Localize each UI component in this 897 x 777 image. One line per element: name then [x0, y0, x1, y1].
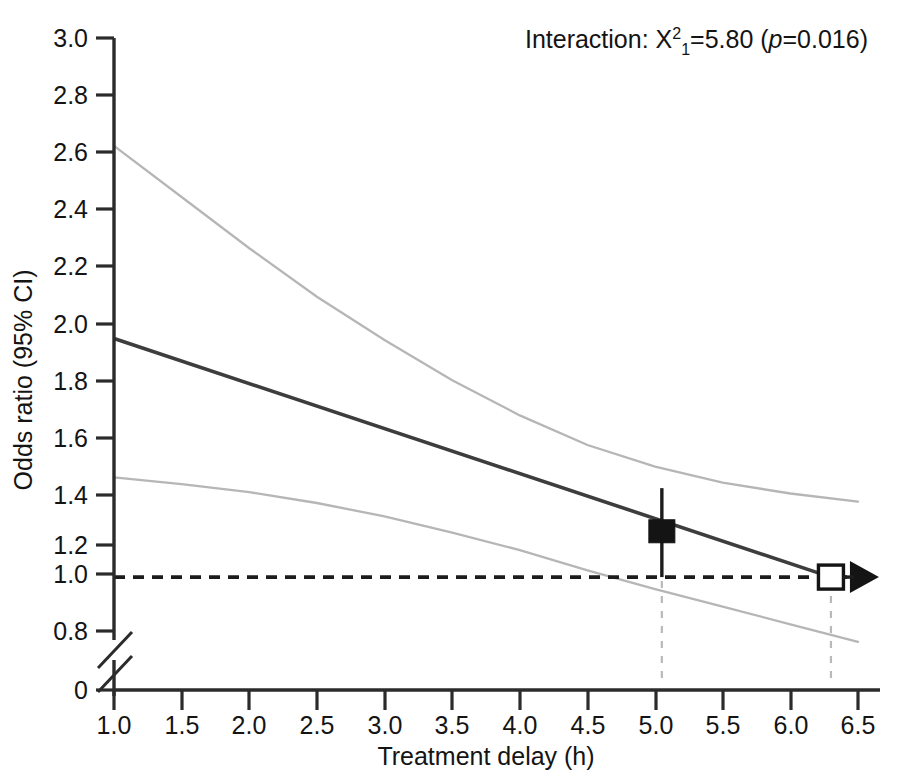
x-tick-label-2-0: 2.0: [232, 711, 267, 739]
interaction-statistic-annotation: Interaction: X21=5.80 (p=0.016): [525, 25, 868, 58]
x-tick-label-6-5: 6.5: [841, 711, 876, 739]
annot-prefix: Interaction: X: [525, 25, 673, 53]
lower-ci-polyline: [114, 477, 858, 641]
annot-p-italic: p: [768, 25, 783, 53]
y-tick-label-0-8: 0.8: [53, 617, 88, 645]
arrow-right-icon: [850, 561, 879, 593]
annot-subscript: 1: [681, 41, 690, 58]
marker-observed-odds-ratio: [649, 520, 675, 543]
y-tick-label-2-0: 2.0: [53, 310, 88, 338]
marker-crossover-point: [818, 565, 843, 589]
y-tick-label-1-2: 1.2: [53, 531, 88, 559]
x-tick-label-5-0: 5.0: [639, 711, 674, 739]
x-tick-label-3-0: 3.0: [368, 711, 403, 739]
x-tick-label-3-5: 3.5: [435, 711, 470, 739]
x-tick-label-2-5: 2.5: [300, 711, 335, 739]
x-axis-ticks: [114, 690, 858, 710]
y-axis-ticks: [96, 38, 114, 690]
y-tick-label-2-8: 2.8: [53, 81, 88, 109]
annot-superscript: 2: [672, 25, 681, 42]
x-axis-title: Treatment delay (h): [377, 742, 594, 770]
odds-ratio-main-line: [114, 339, 831, 578]
x-tick-label-5-5: 5.5: [706, 711, 741, 739]
y-tick-label-2-2: 2.2: [53, 252, 88, 280]
y-tick-label-0: 0: [74, 676, 88, 704]
x-tick-label-1-0: 1.0: [97, 711, 132, 739]
annot-equals: =5.80 (: [690, 25, 769, 53]
x-tick-label-1-5: 1.5: [165, 711, 200, 739]
y-axis-title: Odds ratio (95% CI): [9, 270, 37, 491]
y-tick-label-3-0: 3.0: [53, 24, 88, 52]
x-axis-tick-labels: 1.0 1.5 2.0 2.5 3.0 3.5 4.0 4.5 5.0 5.5 …: [97, 711, 876, 739]
y-tick-label-2-6: 2.6: [53, 138, 88, 166]
annot-p-value: =0.016): [783, 25, 869, 53]
upper-ci-polyline: [114, 146, 858, 502]
y-tick-label-1-6: 1.6: [53, 424, 88, 452]
y-tick-label-1-8: 1.8: [53, 367, 88, 395]
y-tick-label-1-0: 1.0: [53, 560, 88, 588]
y-axis-tick-labels: 3.0 2.8 2.6 2.4 2.2 2.0 1.8 1.6 1.4 1.2 …: [53, 24, 88, 704]
x-tick-label-6-0: 6.0: [774, 711, 809, 739]
x-tick-label-4-5: 4.5: [571, 711, 606, 739]
x-tick-label-4-0: 4.0: [503, 711, 538, 739]
y-tick-label-1-4: 1.4: [53, 481, 88, 509]
chart-figure: Interaction: X21=5.80 (p=0.016): [0, 0, 897, 777]
y-tick-label-2-4: 2.4: [53, 195, 88, 223]
chart-canvas: Interaction: X21=5.80 (p=0.016): [0, 0, 897, 777]
